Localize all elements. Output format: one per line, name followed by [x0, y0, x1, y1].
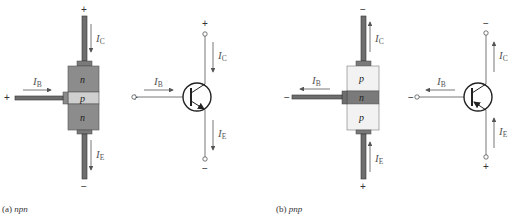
symbol-emitter-sign: − — [202, 163, 208, 174]
symbol-collector-sign: + — [202, 18, 208, 29]
symbol-ic-label: IC — [498, 49, 508, 63]
collector-terminal — [203, 32, 207, 36]
npn-transistor-symbol: + + − IC IB IE — [132, 18, 227, 174]
emitter-sign: + — [360, 181, 366, 192]
base-lead — [292, 95, 342, 99]
layer-label-emitter: n — [80, 112, 85, 123]
caption-prefix: (b) — [276, 204, 287, 214]
pnp-transistor-symbol: − − + IC IB IE — [408, 18, 508, 172]
symbol-ib-label: IB — [153, 75, 163, 89]
ic-label: IC — [95, 32, 105, 46]
symbol-collector-sign: − — [483, 18, 489, 29]
caption-pnp: (b) pnp — [276, 204, 302, 214]
symbol-emitter-sign: + — [483, 161, 489, 172]
emitter-contact — [356, 130, 371, 134]
caption-npn: (a) npn — [2, 204, 28, 214]
ie-label: IE — [95, 148, 105, 162]
emitter-contact — [77, 130, 92, 134]
symbol-ic-label: IC — [217, 49, 227, 63]
symbol-ie-label: IE — [498, 125, 508, 139]
symbol-ib-label: IB — [436, 75, 446, 89]
ic-label: IC — [374, 32, 384, 46]
layer-label-collector: n — [80, 74, 85, 85]
npn-physical-structure: n p n + + − IC IB IE — [4, 4, 105, 192]
collector-sign: − — [360, 4, 366, 15]
collector-contact — [77, 61, 92, 66]
base-terminal — [415, 95, 419, 99]
collector-contact — [356, 61, 371, 66]
layer-label-collector: p — [358, 73, 364, 84]
layer-label-base: n — [359, 92, 364, 103]
ie-label: IE — [374, 152, 384, 166]
symbol-ie-label: IE — [217, 127, 227, 141]
emitter-lead — [361, 134, 366, 179]
layer-label-emitter: p — [358, 112, 364, 123]
collector-lead — [82, 16, 87, 61]
collector-terminal — [484, 31, 488, 35]
emitter-terminal — [203, 157, 207, 161]
ib-label: IB — [32, 75, 42, 89]
caption-type: npn — [14, 204, 28, 214]
emitter-lead — [82, 134, 87, 179]
transistor-envelope — [464, 83, 492, 111]
base-terminal — [132, 95, 136, 99]
pnp-physical-structure: p n p − − + IC IB IE — [284, 4, 384, 192]
collector-sign: + — [81, 4, 87, 15]
base-lead — [15, 96, 63, 100]
collector-lead — [361, 16, 366, 61]
caption-prefix: (a) — [2, 204, 12, 214]
base-sign: + — [4, 92, 10, 103]
ib-label: IB — [311, 74, 321, 88]
base-sign: − — [284, 92, 290, 103]
layer-label-base: p — [79, 93, 85, 104]
caption-type: pnp — [289, 204, 303, 214]
base-contact — [63, 92, 68, 104]
base-contact — [342, 91, 347, 104]
emitter-terminal — [484, 155, 488, 159]
symbol-base-sign: − — [408, 92, 414, 103]
emitter-sign: − — [81, 181, 87, 192]
transistor-envelope — [183, 83, 211, 111]
